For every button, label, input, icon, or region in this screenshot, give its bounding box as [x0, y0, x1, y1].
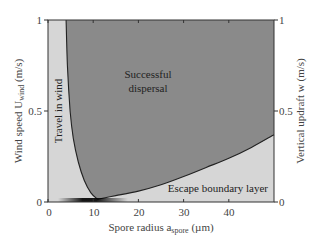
yl-tick-1: 1 — [37, 14, 43, 26]
label-successful-dispersal-line2: dispersal — [128, 82, 167, 94]
y-left-tick-labels: 1 0.5 0 — [28, 14, 42, 208]
x-tick-0: 0 — [46, 206, 52, 218]
yr-tick-0: 0 — [279, 196, 285, 208]
y-left-axis-label-unit: (m/s) — [12, 58, 25, 84]
dispersal-chart: 0 10 20 30 40 1 0.5 0 1 0.5 0 Spore radi… — [0, 0, 321, 240]
yl-tick-0.5: 0.5 — [28, 105, 42, 117]
y-left-axis-label-sub: wind — [17, 85, 26, 101]
x-axis-label-sub: spore — [171, 226, 189, 235]
yl-tick-0: 0 — [37, 196, 43, 208]
y-left-axis-label-main: Wind speed U — [12, 101, 24, 164]
x-axis-label-main: Spore radius a — [108, 221, 171, 233]
x-tick-40: 40 — [224, 206, 236, 218]
y-left-axis-label: Wind speed Uwind (m/s) — [12, 58, 26, 163]
x-axis-label-unit: (µm) — [189, 221, 214, 234]
yr-tick-0.5: 0.5 — [279, 105, 293, 117]
x-tick-20: 20 — [134, 206, 146, 218]
y-right-tick-labels: 1 0.5 0 — [279, 14, 293, 208]
x-tick-30: 30 — [179, 206, 191, 218]
label-successful-dispersal-line1: Successful — [124, 68, 171, 80]
label-travel-in-wind: Travel in wind — [52, 78, 64, 143]
x-tick-labels: 0 10 20 30 40 — [46, 206, 235, 218]
y-right-axis-label: Vertical updraft w (m/s) — [294, 58, 307, 164]
x-tick-10: 10 — [89, 206, 101, 218]
yr-tick-1: 1 — [279, 14, 285, 26]
label-escape-boundary-layer: Escape boundary layer — [168, 182, 269, 194]
x-axis-label: Spore radius aspore (µm) — [108, 221, 214, 235]
